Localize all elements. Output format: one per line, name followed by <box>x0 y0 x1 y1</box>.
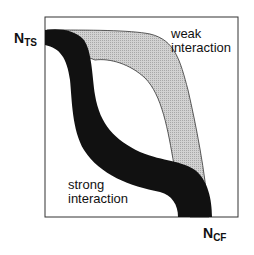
weak-label-line1: weak <box>171 27 231 41</box>
y-axis-label: NTS <box>14 31 37 48</box>
strong-interaction-label: strong interaction <box>68 178 128 206</box>
x-axis-label: NCF <box>203 226 226 243</box>
y-axis-label-sub: TS <box>24 37 37 48</box>
weak-label-line2: interaction <box>171 41 231 55</box>
weak-interaction-label: weak interaction <box>171 27 231 55</box>
strong-label-line2: interaction <box>68 192 128 206</box>
x-axis-label-sub: CF <box>213 232 226 243</box>
x-axis-label-main: N <box>203 225 213 241</box>
y-axis-label-main: N <box>14 30 24 46</box>
strong-label-line1: strong <box>68 178 128 192</box>
